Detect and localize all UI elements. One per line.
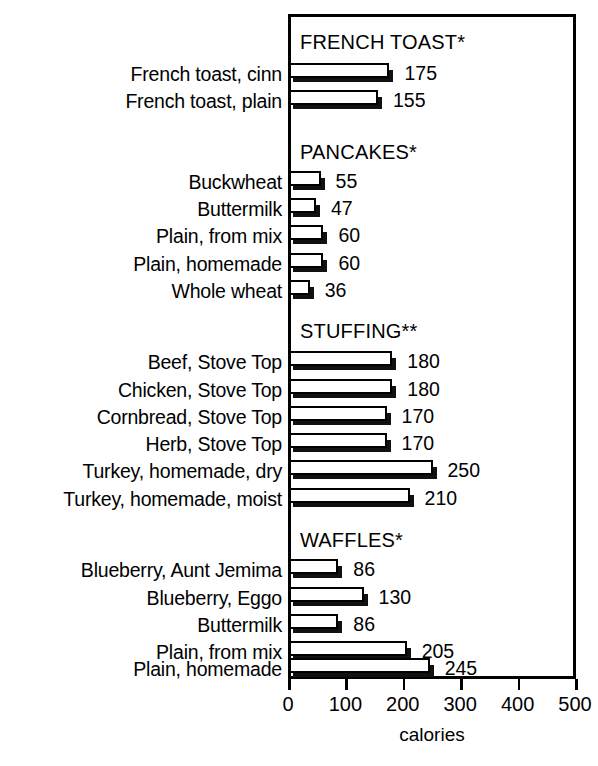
- chart-row: French toast, plain155: [0, 89, 598, 115]
- section-header-french-toast: FRENCH TOAST*: [300, 30, 465, 54]
- bar-value-label: 47: [331, 196, 353, 220]
- section-header-waffles: WAFFLES*: [300, 528, 403, 552]
- x-tick-100: [345, 679, 348, 690]
- bar-value-label: 60: [338, 251, 360, 275]
- bar-value-label: 60: [338, 223, 360, 247]
- bar-french-toast-plain: [289, 90, 386, 114]
- section-header-pancakes: PANCAKES*: [300, 140, 417, 164]
- bar-chicken-stove-top: [289, 379, 400, 403]
- bar-value-label: 170: [402, 404, 435, 428]
- bar-face: [289, 614, 338, 629]
- bar-face: [289, 171, 321, 186]
- chart-row: Turkey, homemade, dry250: [0, 459, 598, 485]
- chart-row: Blueberry, Eggo130: [0, 586, 598, 612]
- row-label-whole-wheat: Whole wheat: [0, 279, 282, 303]
- bar-face: [289, 90, 378, 105]
- bar-buttermilk: [289, 198, 324, 222]
- x-axis-title: calories: [288, 724, 576, 746]
- chart-row: Buckwheat55: [0, 170, 598, 196]
- x-tick-200: [403, 679, 406, 690]
- row-label-french-toast-plain: French toast, plain: [0, 89, 282, 113]
- section-header-stuffing: STUFFING**: [300, 319, 418, 343]
- bar-face: [289, 198, 316, 213]
- x-tick-label-300: 300: [430, 692, 490, 716]
- bar-turkey-homemade-dry: [289, 460, 441, 484]
- chart-row: Buttermilk47: [0, 197, 598, 223]
- bar-face: [289, 63, 389, 78]
- row-label-turkey-homemade-moist: Turkey, homemade, moist: [0, 487, 282, 511]
- bar-face: [289, 406, 387, 421]
- x-tick-400: [518, 679, 521, 690]
- row-label-blueberry-aunt-jemima: Blueberry, Aunt Jemima: [0, 558, 282, 582]
- row-label-turkey-homemade-dry: Turkey, homemade, dry: [0, 459, 282, 483]
- bar-value-label: 130: [379, 585, 412, 609]
- bar-blueberry-eggo: [289, 587, 372, 611]
- chart-row: Cornbread, Stove Top170: [0, 405, 598, 431]
- bar-value-label: 36: [325, 278, 347, 302]
- bar-value-label: 170: [402, 431, 435, 455]
- row-label-plain-homemade: Plain, homemade: [0, 252, 282, 276]
- chart-row: Buttermilk86: [0, 613, 598, 639]
- bar-value-label: 250: [448, 458, 481, 482]
- bar-face: [289, 280, 310, 295]
- row-label-blueberry-eggo: Blueberry, Eggo: [0, 586, 282, 610]
- chart-row: Herb, Stove Top170: [0, 432, 598, 458]
- chart-row: Plain, homemade60: [0, 252, 598, 278]
- bar-beef-stove-top: [289, 351, 400, 375]
- bar-buckwheat: [289, 171, 329, 195]
- row-label-cornbread-stove-top: Cornbread, Stove Top: [0, 405, 282, 429]
- row-label-buttermilk: Buttermilk: [0, 197, 282, 221]
- bar-value-label: 180: [407, 349, 440, 373]
- row-label-plain-homemade: Plain, homemade: [0, 657, 282, 681]
- bar-buttermilk: [289, 614, 346, 638]
- row-label-plain-from-mix: Plain, from mix: [0, 224, 282, 248]
- bar-plain-homemade: [289, 253, 331, 277]
- bar-face: [289, 351, 392, 366]
- bar-value-label: 245: [445, 656, 478, 680]
- x-tick-label-500: 500: [545, 692, 598, 716]
- chart-row: Turkey, homemade, moist210: [0, 487, 598, 513]
- bar-value-label: 180: [407, 377, 440, 401]
- bar-whole-wheat: [289, 280, 318, 304]
- bar-plain-from-mix: [289, 225, 331, 249]
- row-label-french-toast-cinn: French toast, cinn: [0, 62, 282, 86]
- bar-face: [289, 433, 387, 448]
- chart-row: Beef, Stove Top180: [0, 350, 598, 376]
- row-label-buckwheat: Buckwheat: [0, 170, 282, 194]
- chart-row: Blueberry, Aunt Jemima86: [0, 558, 598, 584]
- chart-row: Whole wheat36: [0, 279, 598, 305]
- bar-herb-stove-top: [289, 433, 395, 457]
- bar-turkey-homemade-moist: [289, 488, 418, 512]
- x-tick-label-400: 400: [488, 692, 548, 716]
- bar-face: [289, 253, 323, 268]
- x-tick-label-100: 100: [315, 692, 375, 716]
- row-label-buttermilk: Buttermilk: [0, 613, 282, 637]
- x-axis-ticks: [288, 679, 576, 691]
- bar-value-label: 210: [425, 486, 458, 510]
- bar-face: [289, 658, 430, 673]
- bar-french-toast-cinn: [289, 63, 397, 87]
- bar-face: [289, 460, 433, 475]
- bar-value-label: 175: [404, 61, 437, 85]
- bar-value-label: 55: [336, 169, 358, 193]
- bar-face: [289, 559, 338, 574]
- row-label-beef-stove-top: Beef, Stove Top: [0, 350, 282, 374]
- bar-face: [289, 225, 323, 240]
- row-label-herb-stove-top: Herb, Stove Top: [0, 432, 282, 456]
- bar-face: [289, 641, 407, 656]
- chart-row: Plain, from mix60: [0, 224, 598, 250]
- x-tick-0: [288, 679, 291, 690]
- x-tick-300: [460, 679, 463, 690]
- bar-face: [289, 488, 410, 503]
- chart-row: French toast, cinn175: [0, 62, 598, 88]
- bar-face: [289, 379, 392, 394]
- x-tick-500: [575, 679, 578, 690]
- bar-face: [289, 587, 364, 602]
- calories-bar-chart: FRENCH TOAST*French toast, cinn175French…: [0, 0, 598, 766]
- bar-value-label: 86: [353, 612, 375, 636]
- bar-cornbread-stove-top: [289, 406, 395, 430]
- bar-value-label: 155: [393, 88, 426, 112]
- x-tick-label-0: 0: [258, 692, 318, 716]
- chart-row: Chicken, Stove Top180: [0, 378, 598, 404]
- x-tick-label-200: 200: [373, 692, 433, 716]
